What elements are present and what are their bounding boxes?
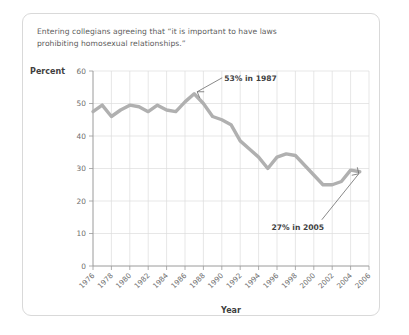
annotation-leader-1987 [197,78,222,98]
x-tick-label: 1996 [261,271,281,291]
annotation-label-1987: 53% in 1987 [224,74,277,83]
y-tick-label: 60 [77,67,87,76]
y-tick-label: 30 [77,164,87,173]
x-tick-label: 2002 [316,271,335,290]
x-tick-label: 1992 [224,271,243,290]
annotation-leader-2005 [322,167,359,220]
annotation-label-2005: 27% in 2005 [271,223,324,232]
tickmarks-group [89,71,369,270]
y-tick-labels-group: 0102030405060 [77,67,87,271]
x-tick-label: 2004 [335,271,355,291]
x-tick-label: 1976 [77,271,97,291]
y-tick-label: 0 [81,262,86,271]
y-axis-title: Percent [30,67,65,76]
chart-plot-area: 0102030405060 19761978198019821984198619… [23,14,381,317]
x-tick-label: 1978 [96,271,116,291]
chart-card: Entering collegians agreeing that “it is… [22,13,380,316]
x-tick-label: 1994 [243,271,263,291]
y-tick-label: 20 [77,197,87,206]
x-tick-label: 1982 [132,271,151,290]
y-tick-label: 40 [77,132,87,141]
y-tick-label: 10 [77,229,87,238]
y-tick-label: 50 [77,99,87,108]
x-tick-label: 1980 [114,271,134,291]
x-tick-label: 2000 [298,271,318,291]
data-series-line [93,94,360,185]
gridlines-group [93,71,369,266]
x-tick-label: 1998 [280,271,300,291]
x-tick-label: 1986 [169,271,189,291]
x-tick-label: 1988 [188,271,208,291]
x-axis-title: Year [220,306,241,315]
line-chart-svg: 0102030405060 19761978198019821984198619… [23,14,381,317]
x-tick-labels-group: 1976197819801982198419861988199019921994… [77,271,373,291]
x-tick-label: 2006 [353,271,373,291]
x-tick-label: 1984 [151,271,171,291]
x-tick-label: 1990 [206,271,226,291]
